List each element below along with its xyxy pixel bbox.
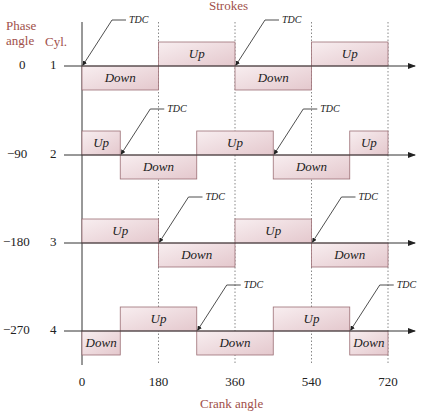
tdc-arrow bbox=[198, 285, 227, 330]
stroke-label: Up bbox=[304, 311, 320, 326]
x-axis-label: Crank angle bbox=[200, 396, 263, 412]
stroke-label: Up bbox=[342, 46, 358, 61]
stroke-label: Up bbox=[151, 311, 167, 326]
tdc-arrow bbox=[351, 285, 380, 330]
stroke-label: Down bbox=[352, 335, 384, 350]
tdc-arrow bbox=[83, 20, 112, 65]
tdc-label: TDC bbox=[206, 191, 226, 202]
stroke-label: Up bbox=[361, 135, 377, 150]
stroke-label: Up bbox=[227, 135, 243, 150]
x-tick-540: 540 bbox=[292, 374, 332, 390]
stroke-label: Down bbox=[295, 159, 327, 174]
stroke-timing-diagram: DownUpDownUpUpDownUpDownUpUpDownUpDownDo… bbox=[0, 0, 429, 414]
stroke-label: Down bbox=[257, 70, 289, 85]
tdc-label: TDC bbox=[167, 103, 187, 114]
tdc-label: TDC bbox=[397, 279, 417, 290]
tdc-arrow bbox=[236, 20, 265, 65]
stroke-label: Up bbox=[265, 223, 281, 238]
tdc-arrow bbox=[274, 109, 303, 154]
tdc-label: TDC bbox=[282, 14, 302, 25]
stroke-label: Up bbox=[112, 223, 128, 238]
x-tick-720: 720 bbox=[368, 374, 408, 390]
stroke-label: Down bbox=[218, 335, 250, 350]
stroke-label: Down bbox=[85, 335, 117, 350]
stroke-label: Down bbox=[333, 247, 365, 262]
stroke-label: Down bbox=[180, 247, 212, 262]
x-tick-360: 360 bbox=[215, 374, 255, 390]
tdc-arrow bbox=[160, 197, 189, 242]
stroke-label: Up bbox=[189, 46, 205, 61]
tdc-label: TDC bbox=[320, 103, 340, 114]
tdc-label: TDC bbox=[244, 279, 264, 290]
x-tick-180: 180 bbox=[139, 374, 179, 390]
tdc-arrow bbox=[121, 109, 150, 154]
stroke-label: Up bbox=[93, 135, 109, 150]
x-tick-0: 0 bbox=[62, 374, 102, 390]
tdc-arrow bbox=[313, 197, 342, 242]
tdc-label: TDC bbox=[359, 191, 379, 202]
tdc-label: TDC bbox=[129, 14, 149, 25]
stroke-label: Down bbox=[104, 70, 136, 85]
stroke-label: Down bbox=[142, 159, 174, 174]
